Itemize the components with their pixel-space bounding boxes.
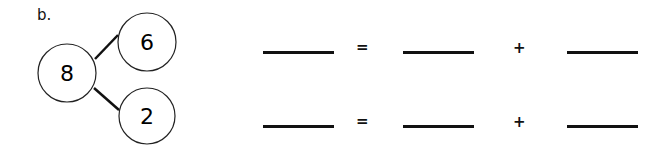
part-circle-bottom: 2 [119,88,175,144]
number-bond-diagram: 8 6 2 [0,0,200,149]
connector-line-top [95,35,118,59]
part-value-top: 6 [140,30,154,55]
answer-blank-addend-1[interactable] [403,51,474,54]
answer-blank-sum[interactable] [263,51,334,54]
plus-sign: + [513,115,526,130]
connector-line-bottom [94,88,119,110]
answer-blank-addend-2[interactable] [567,125,638,128]
plus-sign: + [513,41,526,56]
whole-value: 8 [60,61,74,86]
whole-circle: 8 [38,44,96,102]
answer-blank-addend-2[interactable] [567,51,638,54]
part-value-bottom: 2 [140,104,154,129]
equals-sign: = [356,114,369,129]
answer-blank-addend-1[interactable] [403,125,474,128]
answer-blank-sum[interactable] [263,125,334,128]
part-circle-top: 6 [118,13,176,71]
equals-sign: = [356,40,369,55]
